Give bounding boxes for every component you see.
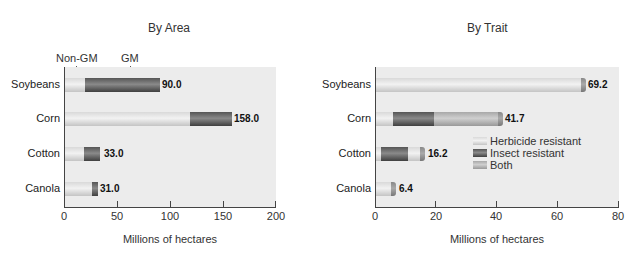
legend-item-insect-resistant: Insect resistant — [473, 147, 581, 159]
category-label-soybeans: Soybeans — [322, 78, 371, 90]
annotation-gm: GM — [121, 52, 139, 64]
category-label-canola: Canola — [336, 182, 371, 194]
legend-item-herbicide-resistant: Herbicide resistant — [473, 135, 581, 147]
value-label: 16.2 — [428, 148, 447, 159]
legend-swatch-icon — [473, 137, 487, 145]
bar-corn — [65, 112, 232, 126]
bar-soybeans — [65, 78, 160, 92]
x-tick-label: 20 — [430, 210, 442, 222]
x-tick-label: 80 — [612, 210, 624, 222]
category-label-canola: Canola — [25, 182, 60, 194]
x-axis-label: Millions of hectares — [450, 233, 544, 245]
segment-non-gm — [65, 147, 84, 161]
value-label: 90.0 — [162, 79, 181, 90]
x-tick — [170, 201, 171, 207]
x-tick — [618, 201, 619, 207]
segment-insect-resistant — [393, 112, 434, 126]
x-tick-label: 60 — [551, 210, 563, 222]
x-tick-label: 100 — [161, 210, 179, 222]
x-tick-label: 40 — [490, 210, 502, 222]
bar-canola — [65, 182, 98, 196]
x-tick-label: 150 — [214, 210, 232, 222]
x-axis — [375, 207, 619, 208]
x-tick — [223, 201, 224, 207]
segment-gm — [92, 182, 98, 196]
x-tick-label: 0 — [61, 210, 67, 222]
segment-gm — [190, 112, 232, 126]
x-axis — [64, 207, 276, 208]
segment-herbicide-resistant — [376, 78, 581, 92]
segment-herbicide-resistant — [376, 182, 391, 196]
x-tick-label: 50 — [111, 210, 123, 222]
chart-title: By Trait — [467, 21, 508, 35]
segment-non-gm — [65, 182, 92, 196]
bar-corn — [376, 112, 503, 126]
x-tick — [435, 201, 436, 207]
chart-by-trait: By Trait 0 20 40 60 80 Millions of hecta… — [316, 0, 632, 253]
category-label-corn: Corn — [347, 112, 371, 124]
legend-item-both: Both — [473, 159, 581, 171]
category-label-cotton: Cotton — [28, 147, 60, 159]
x-tick — [117, 201, 118, 207]
value-label: 41.7 — [505, 113, 524, 124]
category-label-soybeans: Soybeans — [11, 78, 60, 90]
bar-end-cap — [581, 78, 586, 92]
x-tick-label: 0 — [372, 210, 378, 222]
segment-gm — [84, 147, 100, 161]
bar-end-cap — [420, 147, 425, 161]
segment-non-gm — [65, 78, 85, 92]
chart-title: By Area — [148, 21, 190, 35]
x-tick — [496, 201, 497, 207]
segment-insect-resistant — [381, 147, 408, 161]
x-tick — [557, 201, 558, 207]
segment-both — [434, 112, 498, 126]
legend-label: Herbicide resistant — [490, 135, 581, 147]
value-label: 31.0 — [100, 183, 119, 194]
bar-cotton — [65, 147, 100, 161]
value-label: 6.4 — [399, 183, 413, 194]
segment-gm — [85, 78, 160, 92]
value-label: 69.2 — [588, 79, 607, 90]
bar-soybeans — [376, 78, 586, 92]
category-label-cotton: Cotton — [339, 147, 371, 159]
segment-herbicide-resistant — [376, 112, 393, 126]
x-axis-label: Millions of hectares — [123, 233, 217, 245]
x-tick-label: 200 — [267, 210, 285, 222]
segment-non-gm — [65, 112, 190, 126]
value-label: 158.0 — [234, 113, 259, 124]
value-label: 33.0 — [104, 148, 123, 159]
bar-canola — [376, 182, 396, 196]
legend-swatch-icon — [473, 161, 487, 169]
legend-swatch-icon — [473, 149, 487, 157]
bar-end-cap — [391, 182, 396, 196]
legend-label: Both — [490, 159, 513, 171]
legend-label: Insect resistant — [490, 147, 564, 159]
bar-end-cap — [498, 112, 503, 126]
legend: Herbicide resistant Insect resistant Bot… — [473, 135, 581, 171]
chart-by-area: By Area Non-GM GM 0 50 100 150 200 Milli… — [0, 0, 316, 253]
annotation-non-gm: Non-GM — [56, 52, 98, 64]
category-label-corn: Corn — [36, 112, 60, 124]
bar-cotton — [376, 147, 425, 161]
x-tick — [275, 201, 276, 207]
